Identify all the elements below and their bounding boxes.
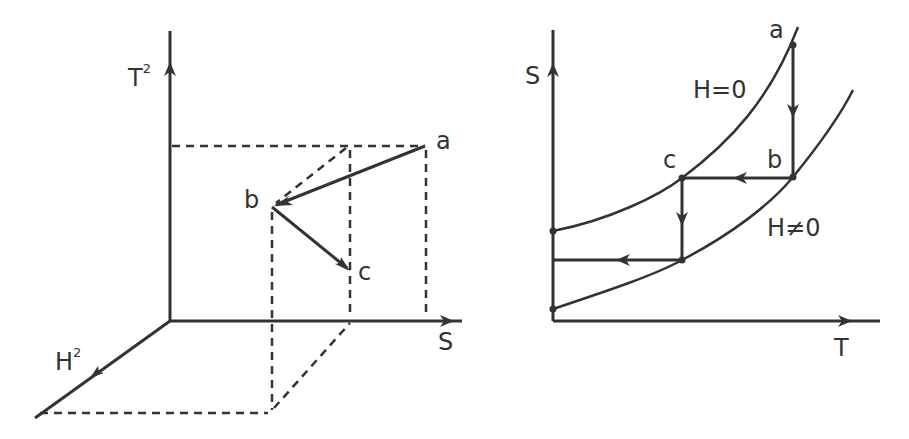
t-label-text: T bbox=[128, 64, 143, 92]
point-a-label: a bbox=[436, 129, 451, 153]
point-b-label: b bbox=[244, 188, 259, 212]
t2-axis-label: T2 bbox=[128, 66, 151, 90]
h-superscript: 2 bbox=[73, 345, 81, 360]
t-axis-label: T bbox=[834, 336, 849, 360]
curve-h-zero-label: H=0 bbox=[693, 78, 746, 102]
s-axis-label-right: S bbox=[525, 64, 540, 88]
t-superscript: 2 bbox=[143, 61, 151, 76]
h-label-text: H bbox=[55, 348, 73, 376]
point-c-label: c bbox=[358, 260, 371, 284]
curve-h-zero bbox=[553, 27, 798, 231]
path-b-to-c bbox=[272, 207, 347, 268]
s-axis-label: S bbox=[438, 330, 453, 354]
point-b-label-right: b bbox=[767, 148, 782, 172]
h2-axis-label: H2 bbox=[55, 350, 81, 374]
point-c-label-right: c bbox=[663, 148, 676, 172]
point-a-label-right: a bbox=[769, 18, 784, 42]
h2-axis-arrow-icon bbox=[90, 366, 104, 378]
right-diagram bbox=[547, 27, 880, 327]
left-diagram bbox=[35, 31, 462, 418]
curve-h-nonzero bbox=[553, 90, 853, 309]
curve-h-nonzero-label: H≠0 bbox=[767, 216, 820, 240]
